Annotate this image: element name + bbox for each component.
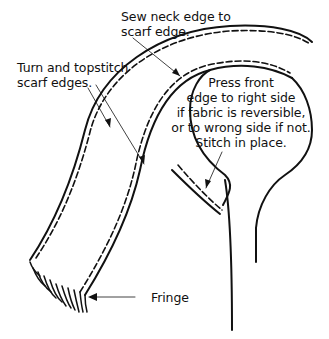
label-press-front: Press front edge to right side if fabric… [170, 75, 312, 150]
arrow-press-front [205, 179, 211, 188]
label-topstitch: Turn and topstitch scarf edges. [17, 60, 128, 90]
front-edge-fold [172, 170, 220, 214]
arrow-fringe [88, 293, 97, 301]
label-fringe: Fringe [151, 290, 189, 305]
leader-topstitch-2 [96, 85, 144, 164]
fringe-strokes [30, 262, 87, 312]
garment-outline-left [225, 180, 232, 330]
front-edge-stitching [178, 165, 222, 210]
label-sew-neck: Sew neck edge to scarf edge. [121, 9, 231, 39]
diagram-drawing [0, 0, 329, 339]
sewing-diagram: Sew neck edge to scarf edge. Turn and to… [0, 0, 329, 339]
